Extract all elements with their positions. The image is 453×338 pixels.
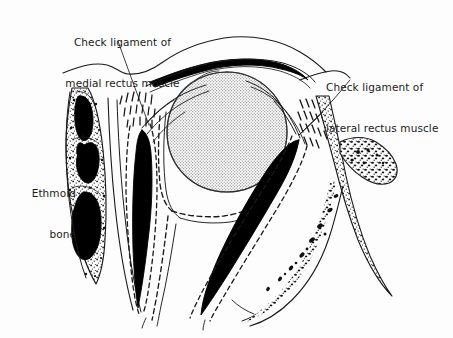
anatomical-figure-orbit: Check ligament of medial rectus muscle C… <box>0 0 453 338</box>
orbit-cross-section-diagram <box>0 0 453 338</box>
ethmoid-air-cell-4 <box>72 192 102 260</box>
